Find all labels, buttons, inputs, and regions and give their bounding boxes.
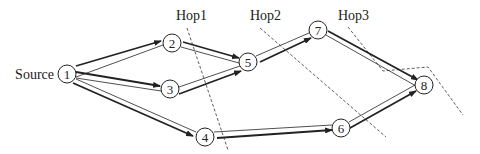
hop3-boundary	[348, 27, 463, 115]
edge-3-5	[179, 66, 241, 94]
hop1-label: Hop1	[176, 8, 207, 23]
node-7: 7	[309, 21, 327, 39]
edge-1-3	[76, 72, 161, 91]
edge-7-8	[326, 31, 418, 86]
node-8-label: 8	[421, 78, 428, 93]
node-4: 4	[196, 128, 214, 146]
edge-6-8	[349, 85, 416, 128]
hop2-boundary	[260, 28, 386, 137]
hop2-label: Hop2	[250, 8, 281, 23]
node-1-label: 1	[64, 67, 71, 82]
node-5: 5	[239, 53, 257, 71]
edge-1-2	[76, 41, 163, 77]
node-5-label: 5	[245, 55, 252, 70]
node-7-label: 7	[315, 23, 322, 38]
node-4-label: 4	[202, 130, 209, 145]
node-6: 6	[332, 119, 350, 137]
edge-5-7	[256, 33, 311, 62]
node-6-label: 6	[338, 121, 345, 136]
node-1: 1	[58, 65, 76, 83]
source-label: Source	[15, 67, 54, 82]
hop3-label: Hop3	[338, 8, 369, 23]
node-2: 2	[163, 34, 181, 52]
node-8: 8	[415, 76, 433, 94]
node-3-label: 3	[167, 82, 174, 97]
edge-4-6	[214, 125, 332, 138]
node-3: 3	[161, 80, 179, 98]
edge-2-5	[181, 42, 239, 63]
node-2-label: 2	[169, 36, 176, 51]
multipath-routing-diagram: 1 2 3 4 5 6 7 8 Source	[0, 0, 480, 154]
